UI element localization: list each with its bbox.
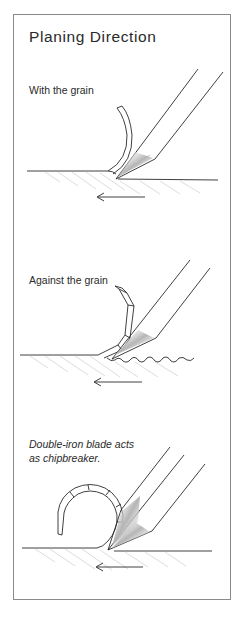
wood-surface-left (22, 541, 108, 548)
wood-surface-right (118, 179, 218, 180)
grain-hatching (30, 356, 178, 377)
blade-shading (115, 330, 154, 355)
chip-outer (64, 491, 117, 541)
torn-surface (107, 357, 194, 362)
direction-arrow-icon (96, 563, 143, 571)
direction-arrow-icon (94, 378, 142, 386)
wood-surface-left (27, 171, 116, 174)
chip-inner (58, 485, 123, 546)
direction-arrow-icon (97, 193, 145, 201)
shaving-outer (108, 108, 127, 171)
planing-illustration (0, 0, 241, 624)
panel-against-grain (20, 260, 210, 386)
panel-double-iron (22, 447, 212, 571)
panel-with-grain (27, 69, 223, 201)
